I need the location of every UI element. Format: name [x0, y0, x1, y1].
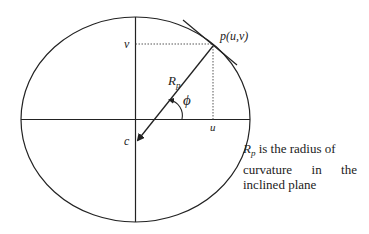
radius-label-main: R: [167, 73, 176, 88]
note-symbol-main: R: [243, 141, 251, 156]
radius-label: Rp: [167, 73, 181, 90]
angle-arc: [170, 100, 182, 119]
note-symbol: Rp: [243, 141, 255, 156]
radius-definition-note: Rp is the radius of curvature in the inc…: [243, 141, 357, 193]
radius-label-sub: p: [175, 80, 181, 90]
curvature-diagram: v p(u,v) Rp ϕ u c: [0, 0, 369, 234]
note-line-1-text: is the radius of: [255, 141, 335, 156]
note-line-1: Rp is the radius of: [243, 141, 357, 162]
radius-line: [138, 46, 213, 140]
v-label: v: [124, 37, 130, 51]
u-label: u: [210, 121, 216, 133]
point-label: p(u,v): [219, 29, 248, 43]
note-line-3: inclined plane: [243, 177, 357, 193]
center-label: c: [124, 134, 130, 148]
note-line-2: curvature in the: [243, 162, 357, 178]
angle-label: ϕ: [183, 92, 191, 108]
